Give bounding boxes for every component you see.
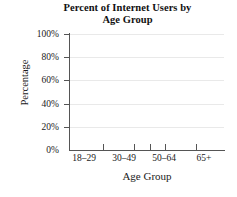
x-tick-mark-4: [165, 144, 166, 150]
y-tick-label-80: 80%: [19, 52, 59, 62]
y-tick-label-20: 20%: [19, 122, 59, 132]
x-tick-label-65-plus: 65+: [182, 153, 226, 164]
chart-title-line-1: Percent of Internet Users by: [30, 2, 225, 14]
x-tick-mark-3: [150, 144, 151, 150]
x-axis-title: Age Group: [70, 170, 224, 183]
bar-series-layer: [70, 34, 224, 150]
x-tick-label-50-64: 50–64: [142, 153, 186, 164]
y-tick-label-0: 0%: [19, 145, 59, 155]
chart-title-line-2: Age Group: [30, 14, 225, 26]
x-tick-mark-5: [196, 144, 197, 150]
y-tick-label-40: 40%: [19, 99, 59, 109]
x-tick-mark-1: [103, 144, 104, 150]
chart-title: Percent of Internet Users by Age Group: [30, 2, 225, 26]
y-tick-label-100: 100%: [19, 29, 59, 39]
x-tick-mark-2: [134, 144, 135, 150]
plot-area: [70, 34, 224, 150]
x-tick-label-30-49: 30–49: [102, 153, 146, 164]
x-axis-line: [69, 150, 225, 151]
y-tick-label-60: 60%: [19, 75, 59, 85]
x-tick-label-18-29: 18–29: [62, 153, 106, 164]
chart-figure: Percent of Internet Users by Age Group P…: [0, 0, 237, 197]
